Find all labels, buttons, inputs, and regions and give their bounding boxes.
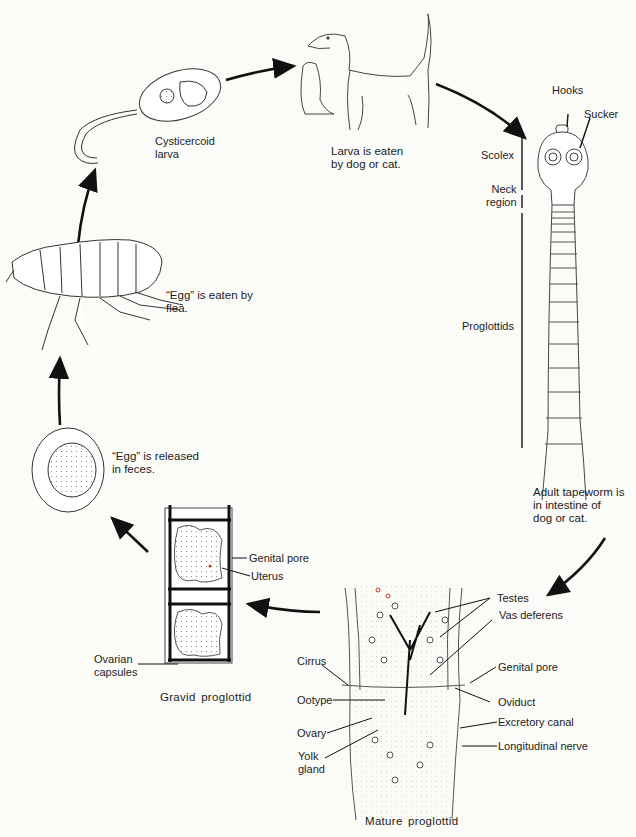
egg-stage-label: “Egg” is released in feces. [112, 450, 199, 476]
sucker-label: Sucker [584, 108, 618, 121]
vas-deferens-label: Vas deferens [499, 609, 563, 622]
gravid-proglottid-illustration [165, 505, 232, 663]
uterus-label: Uterus [251, 570, 283, 583]
host-stage-label: Larva is eaten by dog or cat. [331, 145, 403, 171]
adult-tapeworm-illustration [538, 125, 588, 500]
gravid-genital-pore-label: Genital pore [249, 552, 309, 565]
uterus-marker [209, 565, 212, 568]
testes-label: Testes [497, 592, 529, 605]
cysticercoid-larva-label: Cysticercoid larva [155, 135, 215, 161]
adult-stage-label: Adult tapeworm is in intestine of dog or… [533, 486, 624, 525]
proglottids-label: Proglottids [462, 320, 514, 333]
arrow-egg-to-flea [59, 358, 60, 425]
oviduct-label: Oviduct [498, 696, 535, 709]
egg-illustration [32, 428, 104, 512]
gravid-proglottid-caption: Gravid proglottid [160, 691, 251, 704]
arrow-larva-to-host [226, 66, 294, 80]
scolex-label: Scolex [481, 149, 514, 162]
arrow-gravid-to-egg [112, 518, 148, 552]
excretory-canal-label: Excretory canal [498, 716, 574, 729]
arrow-mature-to-gravid [248, 604, 320, 612]
hooks-label: Hooks [552, 84, 583, 97]
ovary-label: Ovary [297, 727, 326, 740]
flea-illustration [6, 240, 183, 350]
longitudinal-nerve-label: Longitudinal nerve [498, 740, 588, 753]
arrow-adult-to-mature [548, 538, 605, 595]
flea-stage-label: “Egg” is eaten by flea. [166, 289, 253, 315]
mature-proglottid-illustration [342, 585, 465, 820]
arrow-flea-to-larva [78, 170, 95, 245]
cirrus-label: Cirrus [297, 655, 326, 668]
life-cycle-diagram [0, 0, 636, 837]
dog-and-cat-illustration [301, 14, 431, 130]
mature-genital-pore-label: Genital pore [498, 661, 558, 674]
yolk-gland-label: Yolk gland [298, 750, 325, 776]
ovarian-capsules-label: Ovarian capsules [94, 653, 137, 679]
arrow-host-to-adult [436, 84, 525, 138]
neck-region-label: Neck region [486, 183, 517, 209]
ootype-label: Ootype [297, 694, 332, 707]
mature-proglottid-caption: Mature proglottid [365, 815, 458, 828]
